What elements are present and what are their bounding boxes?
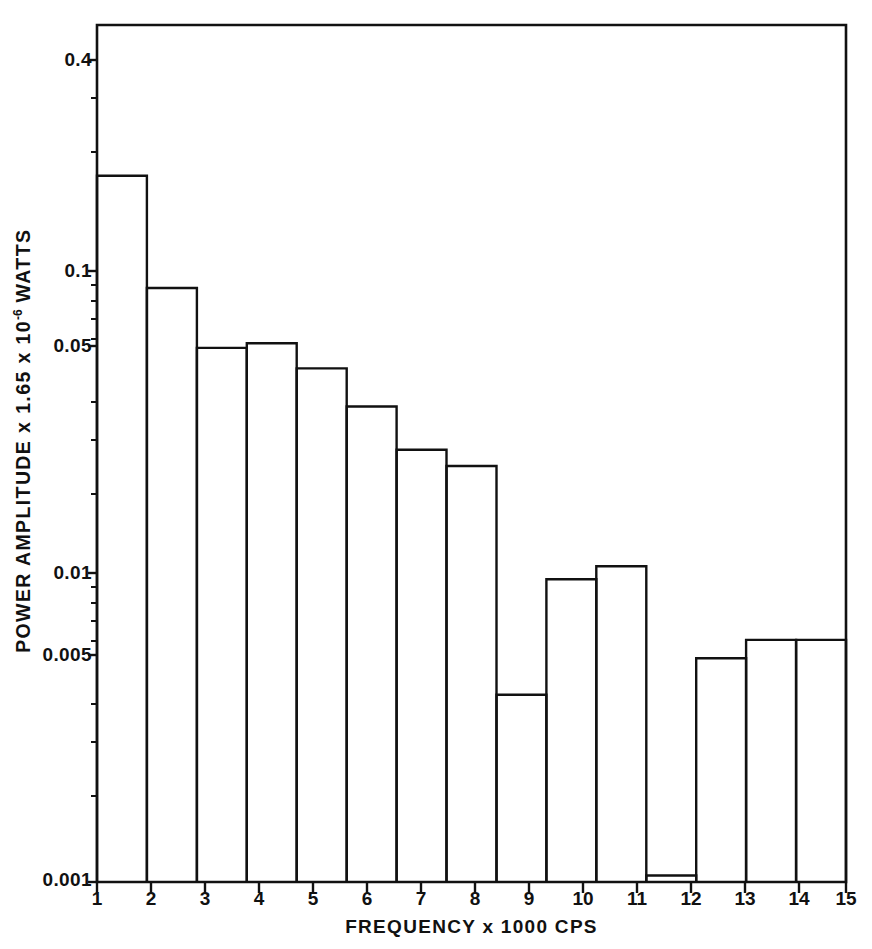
axis-frame <box>97 25 846 882</box>
bar <box>746 640 796 882</box>
frame-rectangle <box>97 25 846 882</box>
x-tick-label-15: 15 <box>826 888 866 910</box>
y-tick-label-0p4: 0.4 <box>6 49 92 71</box>
x-tick-label-12: 12 <box>671 888 711 910</box>
x-tick-label-2: 2 <box>131 888 171 910</box>
bar <box>447 466 497 882</box>
x-tick-label-13: 13 <box>725 888 765 910</box>
chart-figure: POWER AMPLITUDE x 1.65 x 10-6 WATTS 0.4 … <box>0 0 872 949</box>
bar-series <box>97 176 846 882</box>
plot-area <box>0 0 872 949</box>
bar <box>247 343 297 882</box>
bar <box>297 368 347 882</box>
x-tick-label-11: 11 <box>617 888 657 910</box>
x-tick-label-6: 6 <box>347 888 387 910</box>
bar <box>347 407 397 883</box>
bar <box>197 348 247 882</box>
bar <box>147 288 197 882</box>
x-tick-label-5: 5 <box>293 888 333 910</box>
x-tick-label-1: 1 <box>77 888 117 910</box>
bar <box>696 658 746 882</box>
bar <box>796 640 846 882</box>
bar <box>97 176 147 882</box>
y-tick-label-0p05: 0.05 <box>6 335 92 357</box>
y-tick-label-0p1: 0.1 <box>6 260 92 282</box>
y-axis-tick-labels: 0.4 0.1 0.05 0.01 0.005 0.001 <box>0 0 92 949</box>
x-tick-label-10: 10 <box>563 888 603 910</box>
x-axis-title: FREQUENCY x 1000 CPS <box>97 916 846 938</box>
x-tick-label-4: 4 <box>239 888 279 910</box>
x-tick-label-14: 14 <box>779 888 819 910</box>
bar <box>596 566 646 882</box>
bar <box>397 450 447 882</box>
x-tick-label-3: 3 <box>185 888 225 910</box>
x-tick-label-8: 8 <box>455 888 495 910</box>
x-tick-label-9: 9 <box>509 888 549 910</box>
bar <box>497 695 547 882</box>
bar <box>546 579 596 882</box>
y-tick-label-0p01: 0.01 <box>6 562 92 584</box>
y-tick-label-0p005: 0.005 <box>6 644 92 666</box>
x-tick-label-7: 7 <box>401 888 441 910</box>
